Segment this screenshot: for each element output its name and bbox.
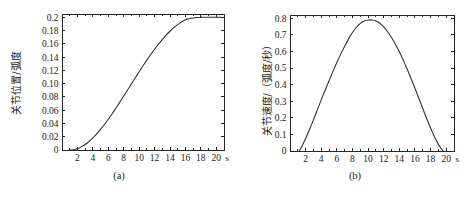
x-tick-label: 2 [75, 153, 80, 163]
x-tick-label: 16 [410, 154, 420, 164]
y-tick-label: 0.16 [42, 39, 59, 49]
y-tick-label: 0.14 [42, 53, 59, 63]
y-tick-label: 0.02 [42, 132, 59, 142]
x-tick-label: 6 [334, 154, 339, 164]
y-tick-label: 0.08 [42, 92, 59, 102]
x-axis-unit-label: s [456, 154, 460, 164]
y-tick-label: 0.1 [275, 130, 287, 140]
x-tick-label: 6 [106, 153, 111, 163]
y-tick-label: 0.04 [42, 119, 59, 129]
y-tick-label: 0.18 [42, 26, 59, 36]
x-tick-label: 16 [181, 153, 191, 163]
x-tick-label: 18 [196, 153, 206, 163]
y-tick-label: 0.5 [275, 63, 287, 73]
x-tick-label: 2 [303, 154, 308, 164]
x-tick-label: 10 [134, 153, 144, 163]
x-axis-unit-label: s [226, 153, 230, 163]
y-tick-label: 0.4 [275, 80, 287, 90]
x-tick-label: 8 [350, 154, 355, 164]
y-tick-label: 0 [54, 145, 59, 155]
x-tick-label: 12 [379, 154, 389, 164]
chart-a-y-axis-title: 关节位置/弧度 [12, 37, 22, 129]
x-tick-label: 12 [150, 153, 160, 163]
y-tick-label: 0.12 [42, 66, 59, 76]
chart-b-caption: (b) [238, 170, 468, 181]
data-curve [299, 20, 443, 151]
y-tick-label: 0.2 [47, 13, 59, 23]
chart-panel-b: 2468101214161820s00.10.20.30.40.50.60.70… [234, 0, 468, 197]
y-tick-label: 0.2 [275, 113, 287, 123]
x-tick-label: 8 [121, 153, 126, 163]
x-tick-label: 18 [426, 154, 436, 164]
y-tick-label: 0.06 [42, 106, 59, 116]
chart-a-canvas: 2468101214161820s00.020.040.060.080.100.… [0, 0, 234, 197]
x-tick-label: 14 [165, 153, 175, 163]
y-tick-label: 0.6 [275, 47, 287, 57]
chart-b-y-axis-title: 关节速度/（弧度/秒） [263, 32, 273, 144]
x-tick-label: 20 [212, 153, 222, 163]
y-tick-label: 0 [282, 146, 287, 156]
x-tick-label: 4 [90, 153, 95, 163]
x-tick-label: 4 [319, 154, 324, 164]
x-tick-label: 20 [441, 154, 451, 164]
chart-panel-a: 2468101214161820s00.020.040.060.080.100.… [0, 0, 234, 197]
y-tick-label: 0.7 [275, 30, 287, 40]
chart-a-caption: (a) [2, 170, 236, 181]
figure-two-panel-plot: 2468101214161820s00.020.040.060.080.100.… [0, 0, 468, 197]
x-tick-label: 10 [363, 154, 373, 164]
y-tick-label: 0.10 [42, 79, 59, 89]
y-tick-label: 0.3 [275, 97, 287, 107]
y-tick-label: 0.8 [275, 14, 287, 24]
data-curve [70, 17, 221, 150]
x-tick-label: 14 [395, 154, 405, 164]
